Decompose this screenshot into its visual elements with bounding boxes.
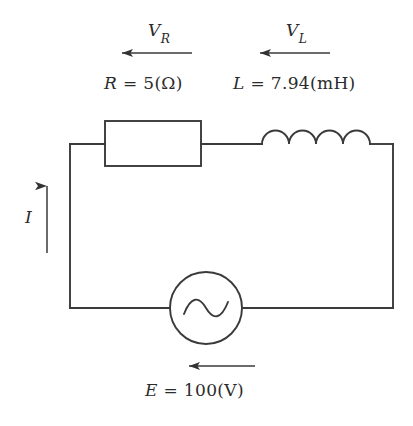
resistor-value: 5 bbox=[143, 73, 154, 93]
resistor-equals: = bbox=[123, 73, 138, 93]
voltage-resistor-label: VR bbox=[148, 22, 170, 43]
current-label: I bbox=[25, 209, 32, 226]
voltage-inductor-label: VL bbox=[286, 22, 306, 43]
resistor-symbol: R bbox=[104, 73, 117, 93]
source-unit: (V) bbox=[217, 380, 244, 400]
resistor-unit: (Ω) bbox=[154, 73, 182, 93]
inductor-unit: (mH) bbox=[310, 73, 356, 93]
ac-source-sine bbox=[184, 300, 228, 317]
resistor-body bbox=[105, 121, 201, 166]
source-value-label: E = 100(V) bbox=[145, 382, 244, 399]
source-value: 100 bbox=[184, 380, 217, 400]
circuit-diagram: VR VL R = 5(Ω) L = 7.94(mH) I E = 100(V) bbox=[0, 0, 413, 426]
inductor-value: 7.94 bbox=[271, 73, 310, 93]
inductor-value-label: L = 7.94(mH) bbox=[233, 75, 356, 92]
vl-subscript: L bbox=[299, 32, 307, 46]
circuit-schematic bbox=[0, 0, 413, 426]
resistor-value-label: R = 5(Ω) bbox=[104, 75, 183, 92]
vl-symbol: V bbox=[286, 20, 298, 40]
source-symbol: E bbox=[145, 380, 158, 400]
vr-symbol: V bbox=[148, 20, 160, 40]
inductor-symbol: L bbox=[233, 73, 245, 93]
inductor-equals: = bbox=[250, 73, 265, 93]
vr-subscript: R bbox=[161, 32, 170, 46]
source-equals: = bbox=[164, 380, 179, 400]
inductor-coil bbox=[262, 131, 370, 145]
